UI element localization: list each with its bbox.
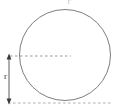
top-label: r: [68, 0, 71, 6]
circle-radius-diagram: r r: [0, 0, 123, 111]
radius-label: r: [4, 71, 7, 81]
arrowhead-down-icon: [7, 99, 12, 105]
circle-shape: [20, 10, 111, 101]
diagram-canvas: r r: [0, 0, 123, 111]
